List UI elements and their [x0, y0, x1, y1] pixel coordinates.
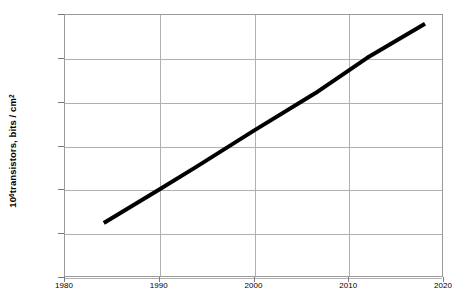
x-axis-tick-mark: [443, 277, 444, 282]
y-axis-tick-mark: [58, 146, 64, 147]
gridline-horizontal: [65, 234, 442, 235]
x-axis-tick-mark: [254, 277, 255, 282]
plot-area: [64, 14, 443, 277]
y-axis-tick-mark: [58, 14, 64, 15]
y-axis-title: 106transistors, bits / cm2: [0, 0, 24, 302]
x-axis-tick-mark: [64, 277, 65, 282]
y-axis-tick-mark: [58, 233, 64, 234]
chart-figure: 106transistors, bits / cm2 10000.001000.…: [0, 0, 455, 302]
gridline-horizontal: [65, 190, 442, 191]
y-axis-title-rest: transistors, bits / cm: [7, 98, 18, 193]
x-axis-tick-label: 1980: [34, 281, 94, 290]
y-axis-tick-mark: [58, 102, 64, 103]
y-axis-title-base: 10: [7, 197, 18, 208]
y-axis-tick-mark: [58, 189, 64, 190]
gridline-vertical: [160, 15, 161, 276]
gridline-horizontal: [65, 103, 442, 104]
gridline-vertical: [349, 15, 350, 276]
x-axis-tick-label: 2010: [318, 281, 378, 290]
x-axis-tick-mark: [159, 277, 160, 282]
x-axis-tick-label: 1990: [129, 281, 189, 290]
gridline-vertical: [255, 15, 256, 276]
x-axis-tick-label: 2000: [224, 281, 284, 290]
y-axis-tick-mark: [58, 58, 64, 59]
gridline-horizontal: [65, 59, 442, 60]
x-axis-tick-mark: [348, 277, 349, 282]
gridline-horizontal: [65, 147, 442, 148]
x-axis-tick-label: 2020: [413, 281, 455, 290]
